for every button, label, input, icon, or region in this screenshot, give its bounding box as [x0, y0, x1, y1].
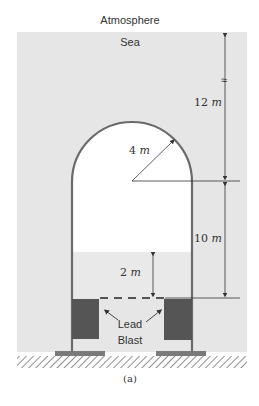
figure-caption: (a)	[123, 373, 137, 384]
lead-blast-left	[72, 299, 99, 339]
svg-text:12 m: 12 m	[194, 96, 222, 109]
ground-hatch	[17, 356, 247, 368]
label-blast: Blast	[118, 334, 142, 346]
label-sea: Sea	[120, 36, 140, 48]
label-2m: 2 m	[120, 266, 141, 279]
diagram-canvas: ≈ Atmosphere Sea 12 m 4 m 10 m 2 m Lead …	[0, 0, 259, 406]
label-atmosphere: Atmosphere	[100, 14, 159, 26]
svg-text:10 m: 10 m	[194, 232, 222, 245]
svg-text:2 m: 2 m	[120, 266, 141, 279]
label-4m: 4 m	[129, 144, 150, 157]
label-lead: Lead	[118, 318, 142, 330]
svg-text:4 m: 4 m	[129, 144, 150, 157]
base-right	[156, 351, 206, 356]
break-symbol: ≈	[221, 74, 227, 86]
label-10m: 10 m	[194, 232, 222, 245]
label-12m: 12 m	[194, 96, 222, 109]
base-left	[55, 351, 105, 356]
lead-blast-right	[164, 299, 192, 340]
